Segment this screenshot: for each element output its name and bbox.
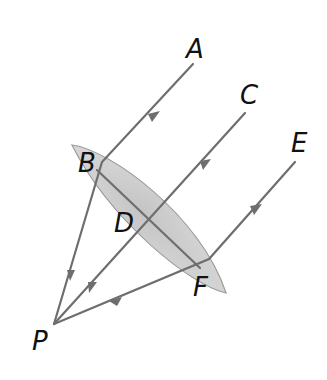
arrow-head-icon [148,111,160,122]
label-e: E [291,128,308,158]
label-f: F [193,272,209,302]
label-d: D [114,208,134,238]
arrow-head-icon [250,204,262,215]
arrow-head-icon [88,282,97,293]
lens-ray-diagram: A C E B D F P [0,0,327,380]
ray-c [54,113,245,324]
label-p: P [32,326,48,356]
label-a: A [184,34,204,64]
label-b: B [78,148,96,178]
label-c: C [240,80,259,110]
